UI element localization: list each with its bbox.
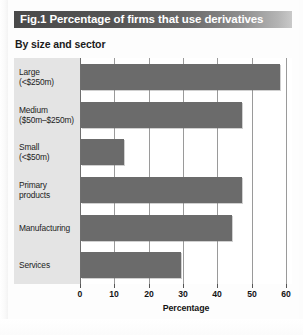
y-axis-line bbox=[80, 58, 81, 284]
category-label: Primaryproducts bbox=[19, 180, 81, 200]
bar bbox=[81, 102, 242, 128]
category-label-line: Services bbox=[19, 260, 50, 270]
bar-chart: Large(<$250m)Medium($50m–$250m)Small(<$5… bbox=[14, 58, 292, 306]
category-label-line: Large bbox=[19, 67, 40, 77]
gridline-60 bbox=[286, 58, 287, 284]
x-tick bbox=[183, 284, 184, 288]
gridline-40 bbox=[217, 58, 218, 284]
bar bbox=[81, 177, 242, 203]
gridline-10 bbox=[114, 58, 115, 284]
x-tick-label: 40 bbox=[212, 289, 222, 299]
figure-title: Fig.1 Percentage of firms that use deriv… bbox=[20, 13, 263, 25]
x-tick bbox=[217, 284, 218, 288]
x-tick bbox=[80, 284, 81, 288]
scan-edge-bottom bbox=[0, 319, 303, 335]
category-label-line: (<$50m) bbox=[19, 152, 81, 162]
x-tick-label: 50 bbox=[247, 289, 257, 299]
figure-panel: Fig.1 Percentage of firms that use deriv… bbox=[0, 0, 303, 335]
category-label: Small(<$50m) bbox=[19, 142, 81, 162]
category-label-line: (<$250m) bbox=[19, 77, 81, 87]
gridline-20 bbox=[149, 58, 150, 284]
category-label-line: products bbox=[19, 190, 81, 200]
x-tick bbox=[286, 284, 287, 288]
category-label: Medium($50m–$250m) bbox=[19, 105, 81, 125]
bar bbox=[81, 252, 181, 278]
x-tick-label: 10 bbox=[109, 289, 119, 299]
bar bbox=[81, 215, 232, 241]
x-tick-label: 60 bbox=[281, 289, 291, 299]
x-tick-label: 0 bbox=[78, 289, 83, 299]
x-tick-label: 20 bbox=[144, 289, 154, 299]
x-tick-label: 30 bbox=[178, 289, 188, 299]
category-label-line: Small bbox=[19, 142, 39, 152]
category-label: Services bbox=[19, 260, 81, 270]
category-label: Manufacturing bbox=[19, 223, 81, 233]
x-tick bbox=[252, 284, 253, 288]
gridline-30 bbox=[183, 58, 184, 284]
category-label-line: Primary bbox=[19, 180, 47, 190]
category-label-panel: Large(<$250m)Medium($50m–$250m)Small(<$5… bbox=[14, 58, 81, 284]
gridline-50 bbox=[252, 58, 253, 284]
category-label-line: Manufacturing bbox=[19, 223, 70, 233]
bar bbox=[81, 139, 124, 165]
x-axis-title: Percentage bbox=[80, 303, 292, 313]
x-tick bbox=[114, 284, 115, 288]
category-label: Large(<$250m) bbox=[19, 67, 81, 87]
figure-subtitle: By size and sector bbox=[15, 38, 105, 50]
category-label-line: Medium bbox=[19, 105, 48, 115]
x-tick bbox=[149, 284, 150, 288]
scan-edge-right bbox=[299, 0, 303, 335]
figure-title-bar: Fig.1 Percentage of firms that use deriv… bbox=[14, 11, 292, 28]
scan-edge-left bbox=[0, 0, 8, 335]
category-label-line: ($50m–$250m) bbox=[19, 115, 81, 125]
bar bbox=[81, 64, 280, 90]
plot-area bbox=[80, 58, 292, 284]
